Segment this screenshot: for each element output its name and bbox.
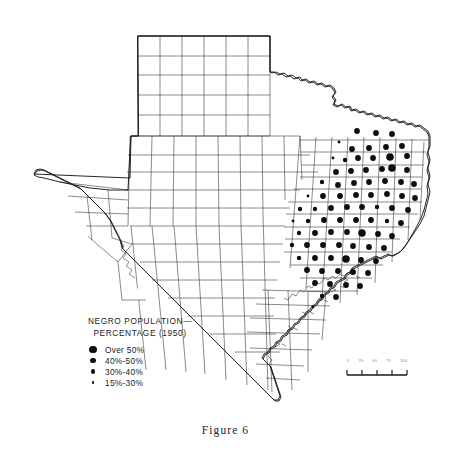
county-population-dot bbox=[344, 204, 350, 210]
county-population-dot bbox=[327, 281, 333, 287]
legend-dot-icon bbox=[84, 369, 102, 373]
county-population-dot bbox=[373, 130, 379, 136]
county-population-dot bbox=[333, 294, 339, 300]
county-boundaries-north-central bbox=[126, 136, 318, 226]
county-population-dot bbox=[313, 207, 317, 211]
county-population-dot bbox=[342, 255, 350, 263]
scale-bar: 0255075100 bbox=[346, 358, 408, 382]
county-population-dot bbox=[370, 155, 376, 161]
county-population-dot bbox=[384, 191, 390, 197]
county-boundaries-big-bend bbox=[60, 182, 146, 300]
county-population-dot bbox=[319, 268, 325, 274]
legend-dot-icon bbox=[84, 381, 102, 384]
map-legend: NEGRO POPULATION— PERCENTAGE (1950) Over… bbox=[60, 316, 220, 388]
county-population-dot bbox=[349, 146, 355, 152]
county-population-dot bbox=[359, 204, 365, 210]
county-population-dot bbox=[381, 245, 387, 251]
county-population-dot bbox=[366, 145, 372, 151]
legend-row: 30%-40% bbox=[84, 366, 220, 377]
scale-bar-tick-label: 75 bbox=[386, 358, 391, 363]
county-population-dot bbox=[389, 205, 395, 211]
county-population-dot bbox=[405, 207, 411, 213]
county-population-dot bbox=[404, 167, 410, 173]
county-population-dot bbox=[368, 192, 374, 198]
county-boundaries-south bbox=[247, 290, 330, 392]
scale-bar-tick-label: 25 bbox=[359, 358, 364, 363]
county-population-dot bbox=[373, 258, 379, 264]
county-population-dot bbox=[320, 180, 324, 184]
scale-bar-graphic bbox=[346, 369, 408, 378]
county-population-dot bbox=[357, 283, 363, 289]
county-population-dot bbox=[335, 182, 341, 188]
county-population-dot bbox=[304, 242, 310, 248]
county-population-dot bbox=[366, 179, 372, 185]
county-population-dot bbox=[399, 193, 405, 199]
county-boundaries-panhandle bbox=[138, 36, 270, 136]
county-population-dot bbox=[411, 181, 417, 187]
county-population-dot bbox=[363, 167, 369, 173]
county-population-dot bbox=[338, 141, 341, 144]
legend-label: Over 50% bbox=[105, 345, 144, 355]
county-population-dot bbox=[350, 269, 356, 275]
county-population-dot bbox=[358, 229, 366, 237]
county-population-dot bbox=[365, 270, 371, 276]
county-population-dot bbox=[297, 256, 301, 260]
legend-row: 40%-50% bbox=[84, 355, 220, 366]
county-population-dot bbox=[375, 205, 379, 209]
county-population-dot bbox=[320, 193, 326, 199]
county-population-dot bbox=[354, 128, 360, 134]
county-population-dot bbox=[328, 229, 334, 235]
legend-title-line1: NEGRO POPULATION— bbox=[60, 316, 220, 328]
legend-row: 15%-30% bbox=[84, 377, 220, 388]
county-population-dot bbox=[304, 267, 310, 273]
figure-6-map: NEGRO POPULATION— PERCENTAGE (1950) Over… bbox=[0, 0, 451, 452]
county-population-dot bbox=[353, 192, 359, 198]
county-population-dot bbox=[343, 158, 347, 162]
county-population-dot bbox=[297, 231, 301, 235]
county-population-dot bbox=[332, 157, 335, 160]
legend-items: Over 50%40%-50%30%-40%15%-30% bbox=[60, 344, 220, 388]
county-population-dot bbox=[306, 219, 310, 223]
legend-label: 30%-40% bbox=[105, 367, 143, 377]
county-population-dot bbox=[366, 244, 372, 250]
county-population-dot bbox=[292, 220, 295, 223]
county-population-dot bbox=[312, 230, 318, 236]
county-population-dot bbox=[404, 153, 410, 159]
county-population-dot bbox=[335, 268, 341, 274]
county-population-dot bbox=[358, 257, 364, 263]
county-population-dot bbox=[379, 166, 385, 172]
county-population-dot bbox=[328, 255, 334, 261]
county-population-dot bbox=[350, 243, 356, 249]
county-population-dot bbox=[290, 243, 294, 247]
county-population-dot bbox=[375, 231, 381, 237]
county-population-dot bbox=[383, 144, 389, 150]
legend-title-line2: PERCENTAGE (1950) bbox=[60, 328, 220, 340]
legend-row: Over 50% bbox=[84, 344, 220, 355]
county-population-dot bbox=[382, 178, 388, 184]
county-population-dot bbox=[336, 242, 342, 248]
county-population-dot bbox=[398, 220, 404, 226]
county-population-dot bbox=[388, 164, 396, 172]
county-population-dot bbox=[312, 255, 318, 261]
legend-label: 15%-30% bbox=[105, 378, 143, 388]
scale-bar-labels: 0255075100 bbox=[346, 358, 408, 364]
county-population-dot bbox=[386, 153, 394, 161]
county-population-dot bbox=[355, 155, 361, 161]
county-population-dot bbox=[398, 179, 404, 185]
county-population-dot bbox=[320, 242, 326, 248]
county-population-dot bbox=[399, 143, 405, 149]
county-population-dot bbox=[353, 217, 359, 223]
scale-bar-tick-label: 0 bbox=[347, 358, 349, 363]
county-population-dot bbox=[328, 205, 334, 211]
county-population-dot bbox=[348, 168, 354, 174]
county-population-dot bbox=[333, 169, 339, 175]
figure-caption: Figure 6 bbox=[0, 424, 451, 436]
county-population-dot bbox=[389, 131, 395, 137]
county-population-dot bbox=[321, 217, 327, 223]
scale-bar-tick-label: 50 bbox=[372, 358, 377, 363]
county-population-dot bbox=[307, 195, 310, 198]
county-population-dot bbox=[337, 217, 343, 223]
county-population-dot bbox=[385, 219, 389, 223]
county-population-dot bbox=[337, 193, 343, 199]
scale-bar-tick-label: 100 bbox=[400, 358, 407, 363]
